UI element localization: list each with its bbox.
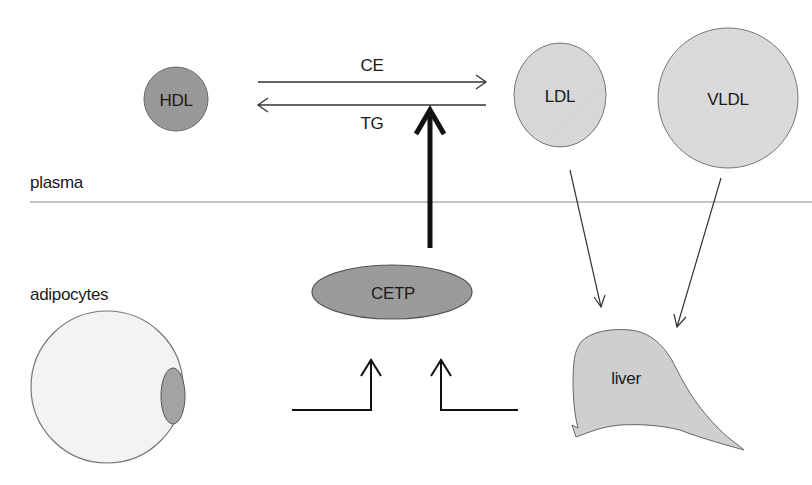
input-arrow-right [431, 360, 518, 410]
adipocyte-cell [31, 311, 185, 463]
ldl-to-liver-arrow [570, 170, 605, 307]
vldl-to-liver-arrow [674, 178, 721, 327]
liver-label: liver [611, 369, 641, 389]
tg-arrow [258, 98, 486, 112]
liver-organ [572, 330, 744, 451]
ce-label: CE [360, 56, 383, 76]
adipocytes-region-label: adipocytes [30, 285, 108, 305]
hdl-label: HDL [159, 91, 192, 111]
tg-label: TG [360, 114, 383, 134]
plasma-region-label: plasma [30, 173, 83, 193]
ce-arrow [258, 75, 486, 89]
diagram-canvas [0, 0, 812, 485]
cetp-label: CETP [371, 284, 415, 304]
cetp-transfer-arrow [416, 110, 444, 248]
input-arrow-left [292, 360, 381, 410]
vldl-label: VLDL [707, 90, 748, 110]
ldl-label: LDL [545, 87, 575, 107]
adipocyte-nucleus [161, 368, 185, 424]
